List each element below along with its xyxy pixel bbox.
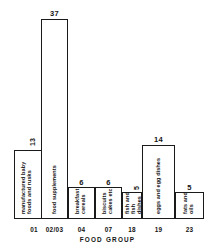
bar-label-04: breakfast cereals [74,180,86,214]
bar-value-19: 14 [142,135,175,144]
bar-chart-figure: 13 manufactured baby foods and rusks 37 … [0,0,215,252]
bar-label-01: manufactured baby foods and rusks [20,152,32,214]
x-axis-line [14,218,204,219]
bar-value-01: 13 [29,138,36,146]
x-tick-18: 18 [122,226,142,233]
x-tick-23: 23 [175,226,204,233]
bar-label-07: biscuits cakes etc. [101,180,113,214]
bar-label-07-line-1: cakes etc. [107,180,113,214]
x-tick-04: 04 [68,226,95,233]
bar-label-23: fats and oils [182,184,194,214]
x-axis-title: FOOD GROUP [0,236,215,243]
bar-value-02-03: 37 [41,9,68,18]
x-tick-19: 19 [142,226,175,233]
bar-label-02-03: food supplements [51,152,57,214]
bar-label-18: fish and fish dishes [124,184,142,214]
bar-label-04-line-1: cereals [80,180,86,214]
bar-label-02-03-line-0: food supplements [51,152,57,214]
bar-label-19: eggs and egg dishes [155,146,161,214]
bar-label-23-line-1: oils [188,184,194,214]
bar-label-19-line-0: eggs and egg dishes [155,146,161,214]
x-tick-07: 07 [95,226,122,233]
bar-label-01-line-1: foods and rusks [26,152,32,214]
plot-area: 13 manufactured baby foods and rusks 37 … [0,0,215,252]
